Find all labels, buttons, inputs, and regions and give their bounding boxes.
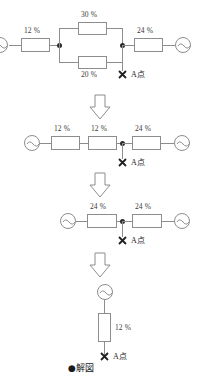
wire-segment bbox=[59, 62, 78, 63]
wire-segment bbox=[122, 45, 123, 71]
ac-source-icon bbox=[174, 135, 190, 151]
down-arrow-icon bbox=[88, 252, 112, 278]
wire-segment bbox=[104, 300, 105, 313]
wire-segment bbox=[161, 143, 174, 144]
resistor-24-percent bbox=[134, 38, 163, 52]
resistor-label: 12 % bbox=[54, 125, 70, 133]
wire-segment bbox=[122, 45, 134, 46]
x-cross-icon bbox=[118, 236, 127, 245]
wire-segment bbox=[122, 143, 123, 159]
wire-segment bbox=[122, 221, 123, 237]
wire-segment bbox=[107, 62, 122, 63]
resistor-24-percent bbox=[87, 214, 117, 228]
wire-segment bbox=[107, 28, 122, 29]
a-point-label: A点 bbox=[131, 237, 145, 245]
ac-source-icon bbox=[175, 37, 191, 53]
wire-segment bbox=[76, 221, 87, 222]
ac-source-icon bbox=[24, 135, 40, 151]
resistor-12-percent bbox=[51, 136, 80, 150]
resistor-label: 12 % bbox=[115, 324, 131, 332]
a-point-label: A点 bbox=[113, 353, 127, 361]
ac-source-icon bbox=[97, 284, 113, 300]
ac-source-icon bbox=[0, 37, 8, 53]
wire-segment bbox=[9, 45, 21, 46]
wire-segment bbox=[59, 28, 60, 62]
x-cross-icon bbox=[118, 70, 127, 79]
resistor-12-percent bbox=[88, 136, 117, 150]
a-point-label: A点 bbox=[131, 159, 145, 167]
resistor-label: 20 % bbox=[81, 71, 97, 79]
resistor-label: 30 % bbox=[81, 11, 97, 19]
resistor-label: 12 % bbox=[91, 125, 107, 133]
resistor-label: 24 % bbox=[137, 27, 153, 35]
wire-segment bbox=[40, 143, 51, 144]
wire-segment bbox=[122, 143, 132, 144]
down-arrow-icon bbox=[88, 94, 112, 120]
resistor-30-percent bbox=[78, 22, 107, 35]
solution-diagram: 12 % 30 % 20 % A点 24 % bbox=[0, 0, 206, 375]
wire-segment bbox=[59, 28, 78, 29]
resistor-24-percent bbox=[132, 136, 161, 150]
figure-caption: ●解図 bbox=[68, 364, 94, 373]
resistor-label: 24 % bbox=[135, 125, 151, 133]
x-cross-icon bbox=[118, 158, 127, 167]
wire-segment bbox=[80, 143, 88, 144]
resistor-24-percent bbox=[132, 214, 162, 228]
ac-source-icon bbox=[60, 213, 76, 229]
resistor-label: 12 % bbox=[24, 27, 40, 35]
wire-segment bbox=[163, 45, 175, 46]
resistor-12-percent bbox=[98, 313, 111, 342]
resistor-label: 24 % bbox=[135, 203, 151, 211]
resistor-12-percent bbox=[21, 38, 50, 52]
wire-segment bbox=[122, 221, 132, 222]
a-point-label: A点 bbox=[131, 71, 145, 79]
wire-segment bbox=[162, 221, 174, 222]
ac-source-icon bbox=[174, 213, 190, 229]
down-arrow-icon bbox=[88, 172, 112, 198]
resistor-label: 24 % bbox=[90, 203, 106, 211]
x-cross-icon bbox=[100, 352, 109, 361]
resistor-20-percent bbox=[78, 56, 107, 69]
